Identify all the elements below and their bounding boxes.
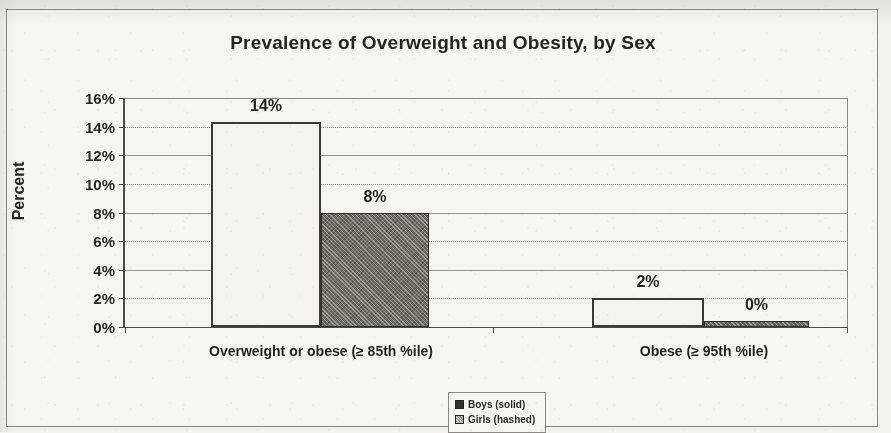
y-axis-tick-label: 10% <box>85 175 115 192</box>
y-axis-tick-label: 4% <box>93 261 115 278</box>
bar-value-label: 0% <box>745 296 768 314</box>
legend-item: Boys (solid) <box>455 397 535 412</box>
gridline <box>125 98 848 99</box>
y-axis-tick <box>119 127 125 128</box>
y-axis-tick-label: 8% <box>93 204 115 221</box>
y-axis-tick <box>119 298 125 299</box>
x-axis-category-label: Overweight or obese (≥ 85th %ile) <box>209 343 433 359</box>
y-axis-tick <box>119 184 125 185</box>
bar-value-label: 8% <box>363 188 386 206</box>
y-axis-tick-label: 14% <box>85 118 115 135</box>
bar-boys <box>592 298 704 327</box>
y-axis-tick-label: 0% <box>93 319 115 336</box>
y-axis-tick <box>119 270 125 271</box>
x-axis-category-label: Obese (≥ 95th %ile) <box>640 343 768 359</box>
y-axis-tick <box>119 213 125 214</box>
legend-item-label: Girls (hashed) <box>468 414 535 425</box>
chart-frame: Prevalence of Overweight and Obesity, by… <box>6 9 878 427</box>
bar-value-label: 14% <box>250 97 282 115</box>
plot-area: 16%14%12%10%8%6%4%2%0% 14%8%2%0% Overwei… <box>123 98 848 327</box>
solid-square-icon <box>455 400 464 409</box>
chart-title: Prevalence of Overweight and Obesity, by… <box>7 32 879 54</box>
bar-boys <box>211 122 321 327</box>
chart-legend: Boys (solid)Girls (hashed) <box>448 392 546 433</box>
bar-girls <box>704 321 809 327</box>
y-axis-tick-label: 6% <box>93 233 115 250</box>
legend-item-label: Boys (solid) <box>468 399 525 410</box>
legend-item: Girls (hashed) <box>455 412 535 427</box>
bar-value-label: 2% <box>636 273 659 291</box>
y-axis-tick <box>119 155 125 156</box>
bar-girls <box>321 213 429 328</box>
y-axis-tick-label: 2% <box>93 290 115 307</box>
y-axis-tick <box>119 98 125 99</box>
gridline <box>125 327 848 328</box>
y-axis-tick <box>119 241 125 242</box>
x-axis-tick <box>125 327 126 333</box>
hashed-square-icon <box>455 415 464 424</box>
y-axis-tick-label: 16% <box>85 90 115 107</box>
y-axis-title: Percent <box>10 131 28 251</box>
x-axis-tick <box>847 327 848 333</box>
y-axis-tick-label: 12% <box>85 147 115 164</box>
x-axis-tick <box>493 327 494 333</box>
